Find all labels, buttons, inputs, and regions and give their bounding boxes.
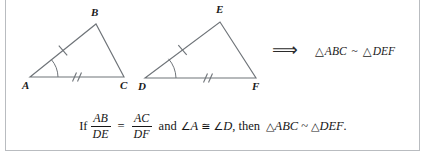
caption: If AB DE = AC DF and ∠ A ≅ ∠ D , then: [0, 112, 426, 140]
tick-marks-side-de: [178, 45, 186, 55]
caption-triangle-icon-1: △: [266, 121, 274, 132]
angle-arc-d: [169, 59, 177, 78]
figure-page: A B C D E F ⟹ △ABC~△DEF: [0, 0, 426, 158]
conclusion-triangle-1-name: ABC: [324, 45, 347, 57]
geometry-diagram: A B C D E F ⟹ △ABC~△DEF: [0, 0, 426, 112]
caption-period: .: [344, 120, 347, 133]
caption-similar-symbol: ~: [301, 120, 308, 133]
implication-arrow-icon: ⟹: [272, 39, 298, 60]
angle-symbol-2: ∠: [213, 121, 223, 132]
tick-marks-side-ab: [59, 46, 67, 56]
caption-and-word: and: [159, 120, 177, 133]
triangle-abc-outline: [30, 24, 124, 77]
vertex-label-e: E: [215, 3, 223, 15]
caption-triangle-2-name: DEF: [319, 120, 343, 133]
caption-angle-2-name: D: [223, 120, 232, 133]
vertex-label-d: D: [137, 80, 146, 92]
vertex-label-a: A: [21, 79, 29, 91]
conclusion-similar-symbol: ~: [352, 45, 358, 57]
fraction-2-numerator: AC: [132, 112, 151, 126]
fraction-2-denominator: DF: [132, 127, 152, 141]
vertex-label-f: F: [251, 80, 260, 92]
fraction-ab-de: AB DE: [91, 112, 111, 140]
angle-symbol-1: ∠: [181, 121, 191, 132]
conclusion-triangle-icon-1: △: [315, 45, 324, 57]
conclusion-triangle-2-name: DEF: [372, 45, 396, 57]
triangle-def: D E F: [137, 3, 260, 92]
triangle-def-outline: [145, 22, 256, 78]
fraction-1-denominator: DE: [91, 127, 111, 141]
caption-row: If AB DE = AC DF and ∠ A ≅ ∠ D , then: [79, 112, 347, 140]
svg-text:△ABC~△DEF: △ABC~△DEF: [315, 45, 396, 57]
caption-triangle-1-name: ABC: [275, 120, 299, 133]
caption-if-word: If: [79, 120, 87, 133]
congruent-symbol: ≅: [201, 121, 210, 132]
equals-symbol: =: [118, 120, 125, 133]
conclusion-statement: △ABC~△DEF: [315, 45, 396, 57]
fraction-1-numerator: AB: [91, 112, 110, 126]
triangle-abc: A B C: [21, 6, 128, 91]
caption-then-word: , then: [232, 120, 260, 133]
caption-angle-1-name: A: [191, 120, 199, 133]
angle-arc-a: [51, 60, 58, 78]
conclusion-triangle-icon-2: △: [363, 45, 372, 57]
vertex-label-b: B: [90, 6, 98, 18]
vertex-label-c: C: [120, 79, 128, 91]
fraction-ac-df: AC DF: [132, 112, 152, 140]
